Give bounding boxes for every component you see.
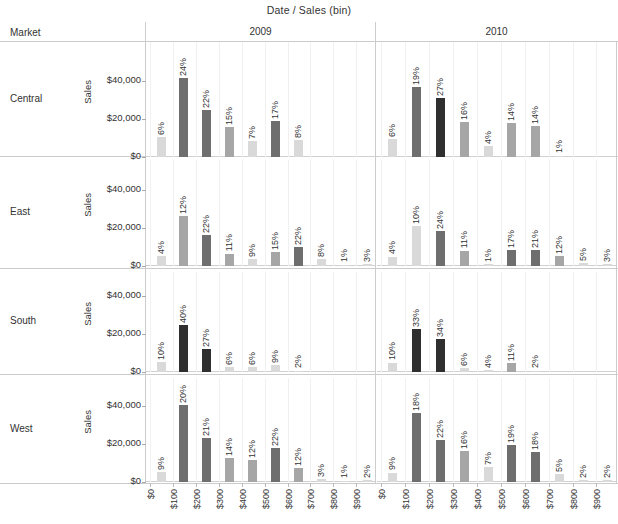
x-axis-tick-mark (596, 483, 597, 487)
gridline (525, 272, 526, 372)
bar (271, 448, 280, 482)
gridline (453, 272, 454, 372)
chart-title: Date/Sales (bin) (0, 4, 618, 16)
bar (202, 438, 211, 482)
bar (436, 98, 445, 157)
bar-value-label: 3% (362, 249, 372, 262)
gridline (596, 272, 597, 372)
bar (271, 365, 280, 372)
gridline (405, 160, 406, 266)
bar-value-label: 20% (178, 385, 188, 403)
gridline (356, 160, 357, 266)
gridline (265, 272, 266, 372)
bar (294, 371, 303, 373)
y-axis-tick-mark (142, 372, 146, 373)
bar (531, 250, 540, 266)
y-axis-title: Sales (82, 193, 93, 217)
bar (507, 445, 516, 482)
gridline (453, 378, 454, 482)
gridline (381, 378, 382, 482)
gridline (356, 42, 357, 157)
gridline (477, 378, 478, 482)
bar (248, 259, 257, 266)
bar (271, 121, 280, 157)
bar-value-label: 6% (224, 352, 234, 365)
x-axis-tick-mark (429, 483, 430, 487)
gridline (219, 378, 220, 482)
bar-value-label: 19% (506, 425, 516, 443)
x-axis-tick-mark (310, 483, 311, 487)
bar-value-label: 5% (578, 248, 588, 261)
gridline (242, 272, 243, 372)
gridline (573, 42, 574, 157)
bar-value-label: 2% (578, 465, 588, 478)
panel-central-2010: 6%19%27%16%4%14%14%1% (377, 42, 616, 157)
bar (317, 479, 326, 482)
bar (225, 458, 234, 482)
bar-value-label: 1% (554, 140, 564, 153)
bar-value-label: 18% (530, 432, 540, 450)
bar (460, 368, 469, 372)
x-axis-tick-mark (549, 483, 550, 487)
gridline (429, 42, 430, 157)
column-header-2010: 2010 (377, 26, 616, 37)
gridline (356, 272, 357, 372)
bar (363, 264, 372, 266)
bar (436, 339, 445, 372)
bar (179, 405, 188, 482)
x-axis-tick-label: $500 (497, 489, 507, 509)
bar (202, 349, 211, 372)
x-axis-tick-mark (477, 483, 478, 487)
y-axis-tick-label: $0 (85, 475, 141, 486)
bar (412, 329, 421, 372)
bar-value-label: 9% (156, 457, 166, 470)
bar (157, 472, 166, 482)
x-axis-tick-label: $0 (146, 489, 156, 499)
bar (294, 247, 303, 266)
bar-value-label: 9% (270, 350, 280, 363)
y-axis-tick-mark (142, 266, 146, 267)
bar (507, 123, 516, 157)
gridline (242, 42, 243, 157)
bar (603, 480, 612, 482)
bar-value-label: 6% (247, 352, 257, 365)
x-axis-tick-mark (356, 483, 357, 487)
bar (555, 474, 564, 482)
panel-west-2010: 9%18%22%16%7%19%18%5%2%2% (377, 378, 616, 482)
title-field-date: Date (267, 4, 290, 16)
chart-container: Date/Sales (bin) Market 2009 2010 Centra… (0, 0, 618, 524)
x-axis-tick-label: $0 (377, 489, 387, 499)
row-header-west: West (10, 423, 33, 434)
gridline (310, 272, 311, 372)
bar-value-label: 7% (483, 452, 493, 465)
bar (531, 126, 540, 157)
bar (484, 264, 493, 266)
bar (388, 363, 397, 373)
bar-value-label: 16% (459, 431, 469, 449)
bar-value-label: 22% (201, 215, 211, 233)
bar-value-label: 3% (316, 464, 326, 477)
bar (157, 362, 166, 372)
gridline (219, 272, 220, 372)
x-axis-tick-mark (288, 483, 289, 487)
bar-value-label: 14% (506, 103, 516, 121)
bar-value-label: 10% (156, 342, 166, 360)
y-axis-tick-label: $0 (85, 259, 141, 270)
bar (484, 467, 493, 482)
gridline (242, 378, 243, 482)
row-header-south: South (10, 315, 36, 326)
gridline (150, 160, 151, 266)
gridline (549, 378, 550, 482)
gridline (501, 272, 502, 372)
bar (388, 473, 397, 483)
y-axis-title: Sales (82, 302, 93, 326)
x-axis-tick-label: $200 (192, 489, 202, 509)
panel-central-2009: 6%24%22%15%7%17%8% (146, 42, 375, 157)
y-axis-tick-label: $20,000 (85, 112, 141, 123)
x-axis-tick-mark (333, 483, 334, 487)
gridline (501, 378, 502, 482)
bar (225, 254, 234, 266)
title-field-bin: Sales (bin) (299, 4, 351, 16)
bar-value-label: 19% (411, 67, 421, 85)
bar-value-label: 6% (156, 122, 166, 135)
